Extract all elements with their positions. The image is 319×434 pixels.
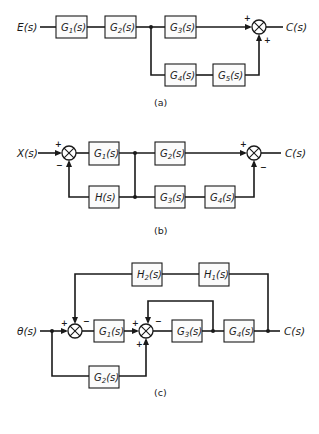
block-g3: G3(s): [155, 186, 185, 208]
block-g2: G2(s): [105, 16, 136, 38]
output-label: C(s): [284, 325, 305, 337]
block-h2: H2(s): [132, 263, 162, 286]
arrow-icon: [66, 160, 72, 167]
output-label: C(s): [285, 147, 306, 159]
block-g1: G1(s): [94, 320, 124, 342]
input-label: E(s): [17, 21, 37, 33]
panel-b: X(s) + − G1(s) G2(s) H(s): [16, 140, 306, 236]
arrow-icon: [132, 328, 139, 334]
summing-junction: [62, 146, 76, 160]
block-g2: G2(s): [89, 366, 119, 388]
panel-a: E(s) G1(s) G2(s) G3(s) G4(s) G5(s): [17, 14, 307, 108]
block-diagram-figure: E(s) G1(s) G2(s) G3(s) G4(s) G5(s): [0, 0, 319, 434]
arrow-icon: [256, 34, 262, 41]
block-g4: G4(s): [165, 64, 196, 86]
sign-minus: −: [83, 317, 90, 326]
panel-caption: (b): [154, 225, 167, 236]
panel-caption: (a): [154, 97, 167, 108]
block-g3: G3(s): [172, 320, 202, 342]
summing-junction: [252, 20, 266, 34]
summing-junction: [139, 324, 153, 338]
arrow-icon: [55, 150, 62, 156]
sign-plus: +: [264, 36, 271, 45]
panel-caption: (c): [154, 387, 167, 398]
input-label: θ(s): [17, 325, 37, 337]
block-g3: G3(s): [165, 16, 196, 38]
sign-minus: −: [56, 161, 63, 170]
arrow-icon: [145, 317, 151, 324]
arrow-icon: [240, 150, 247, 156]
sign-plus: +: [240, 140, 247, 149]
sign-plus: +: [136, 340, 143, 349]
input-label: X(s): [16, 147, 38, 159]
block-g2: G2(s): [155, 142, 185, 165]
block-h1: H1(s): [199, 263, 229, 286]
arrow-icon: [72, 317, 78, 324]
block-g5: G5(s): [213, 64, 245, 86]
arrow-icon: [61, 328, 68, 334]
sign-plus: +: [244, 14, 251, 23]
sign-minus: −: [260, 163, 267, 172]
sign-plus: +: [61, 319, 68, 328]
block-h: H(s): [89, 186, 119, 208]
output-label: C(s): [286, 21, 307, 33]
arrow-icon: [245, 24, 252, 30]
arrow-icon: [143, 338, 149, 345]
sign-minus: −: [155, 317, 162, 326]
sign-plus: +: [132, 319, 139, 328]
summing-junction: [247, 146, 261, 160]
panel-c: θ(s) + − G1(s) + − + G3(s) G4(s): [17, 263, 305, 398]
sign-plus: +: [55, 140, 62, 149]
svg-text:H(s): H(s): [95, 192, 116, 203]
block-g1: G1(s): [56, 16, 87, 38]
summing-junction: [68, 324, 82, 338]
arrow-icon: [251, 160, 257, 167]
block-g1: G1(s): [89, 142, 119, 165]
block-g4: G4(s): [205, 186, 235, 208]
block-g4: G4(s): [224, 320, 254, 342]
